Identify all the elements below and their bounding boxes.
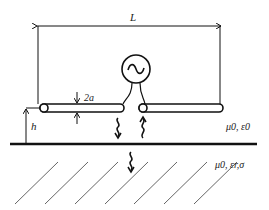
lower-medium-label: μ0, εr,σ <box>214 159 245 170</box>
ac-source-icon <box>122 55 150 104</box>
height-label: h <box>31 120 37 132</box>
radius-label: 2a <box>84 92 94 103</box>
dipole-left-arm <box>40 104 124 112</box>
wave-up-icon <box>140 117 146 138</box>
length-label: L <box>129 11 136 23</box>
dipole-right-arm <box>139 104 223 112</box>
upper-medium-label: μ0, ε0 <box>225 121 250 132</box>
wave-transmitted-icon <box>128 152 134 172</box>
wave-down-icon <box>115 118 121 138</box>
dipole-diagram: L 2a h μ0, ε0 <box>0 0 269 210</box>
ground-hatch <box>15 162 237 204</box>
